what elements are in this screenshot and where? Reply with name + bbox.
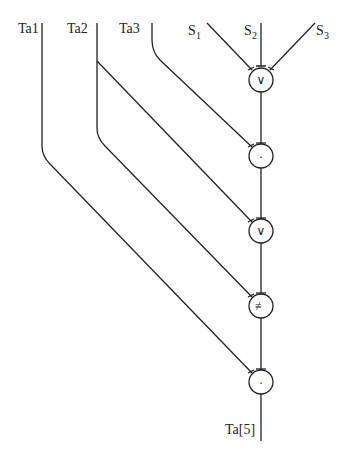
output-label: Ta[5] bbox=[225, 422, 255, 437]
logic-diagram: Ta1 Ta2 Ta3 S 1 S 2 S 3 ∨ · bbox=[0, 0, 347, 465]
wire-ta2 bbox=[97, 23, 252, 297]
input-label-s2: S 2 bbox=[244, 23, 257, 41]
svg-text:3: 3 bbox=[324, 30, 329, 41]
node-2-and: · bbox=[249, 144, 273, 168]
input-label-ta1: Ta1 bbox=[18, 21, 39, 36]
svg-text:≢: ≢ bbox=[255, 299, 267, 313]
svg-text:S: S bbox=[316, 23, 324, 38]
svg-text:S: S bbox=[244, 23, 252, 38]
svg-text:∨: ∨ bbox=[257, 73, 266, 87]
node-4-xor: ≢ bbox=[249, 294, 273, 318]
node-3-or: ∨ bbox=[249, 219, 273, 243]
input-label-ta3: Ta3 bbox=[119, 21, 140, 36]
input-label-ta2: Ta2 bbox=[67, 21, 88, 36]
input-label-s1: S 1 bbox=[188, 23, 201, 41]
svg-text:∨: ∨ bbox=[257, 224, 266, 238]
node-1-or: ∨ bbox=[249, 68, 273, 92]
wire-ta2-branch bbox=[97, 61, 252, 222]
wire-ta1 bbox=[42, 23, 252, 373]
wire-ta3 bbox=[152, 23, 252, 147]
wire-s3 bbox=[270, 23, 315, 70]
node-5-and: · bbox=[249, 370, 273, 394]
svg-text:·: · bbox=[259, 376, 263, 390]
input-label-s3: S 3 bbox=[316, 23, 329, 41]
svg-text:1: 1 bbox=[196, 30, 201, 41]
svg-text:2: 2 bbox=[252, 30, 257, 41]
svg-text:S: S bbox=[188, 23, 196, 38]
svg-text:·: · bbox=[259, 150, 263, 164]
